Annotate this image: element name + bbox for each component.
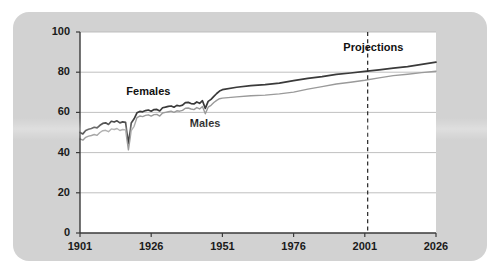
x-axis-label-1951: 1951 xyxy=(200,240,244,252)
y-axis-label-20: 20 xyxy=(42,186,70,198)
annotation-males: Males xyxy=(190,117,221,129)
annotation-projections: Projections xyxy=(343,41,403,53)
x-axis-label-1976: 1976 xyxy=(272,240,316,252)
chart-figure: 020406080100 190119261951197620012026 Fe… xyxy=(0,0,500,273)
y-axis-label-80: 80 xyxy=(42,65,70,77)
x-axis-label-2001: 2001 xyxy=(343,240,387,252)
x-axis-label-2026: 2026 xyxy=(414,240,458,252)
line-chart-plot xyxy=(0,0,500,273)
annotation-females: Females xyxy=(126,85,170,97)
y-axis-label-0: 0 xyxy=(42,226,70,238)
y-axis-label-60: 60 xyxy=(42,105,70,117)
x-axis-label-1901: 1901 xyxy=(58,240,102,252)
y-axis-label-100: 100 xyxy=(42,25,70,37)
y-axis-label-40: 40 xyxy=(42,146,70,158)
x-axis-label-1926: 1926 xyxy=(129,240,173,252)
plot-area-background xyxy=(80,32,436,233)
